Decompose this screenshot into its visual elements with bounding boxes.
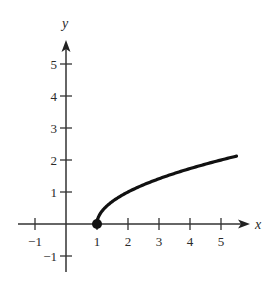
- y-tick-label: 1: [51, 185, 58, 200]
- x-axis: x: [18, 217, 262, 232]
- x-ticks: −112345: [28, 218, 224, 249]
- y-tick-label: −1: [43, 249, 57, 264]
- x-tick-label: 2: [125, 234, 132, 249]
- curve-line: [97, 156, 237, 224]
- x-tick-label: 5: [218, 234, 225, 249]
- x-tick-label: 4: [187, 234, 194, 249]
- y-axis: y: [60, 16, 71, 272]
- x-tick-label: 3: [156, 234, 163, 249]
- closed-dot-marker: [92, 219, 102, 229]
- y-tick-label: 3: [51, 121, 58, 136]
- y-tick-label: 5: [51, 57, 58, 72]
- x-axis-label: x: [254, 217, 262, 232]
- chart-plot: x y −112345 −112345: [0, 0, 278, 284]
- y-axis-label: y: [60, 16, 69, 31]
- y-tick-label: 4: [51, 89, 58, 104]
- y-tick-label: 2: [51, 153, 58, 168]
- x-tick-label: −1: [28, 234, 42, 249]
- x-tick-label: 1: [94, 234, 101, 249]
- y-ticks: −112345: [43, 57, 72, 264]
